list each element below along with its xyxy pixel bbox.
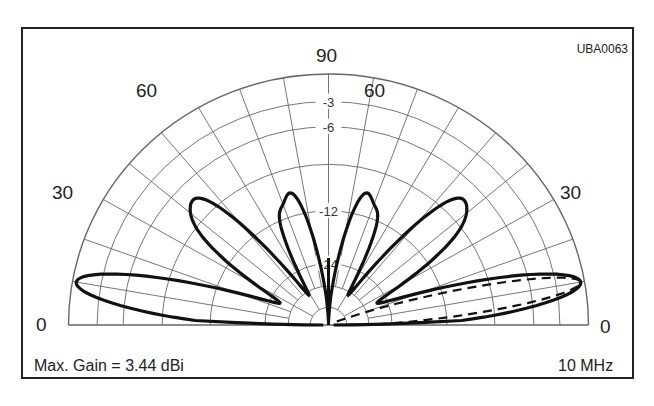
pattern-solid-right: [329, 193, 581, 325]
angle-label-60-left: 60: [136, 80, 157, 102]
angle-label-30-right: 30: [560, 182, 581, 204]
pattern-solid-left: [76, 193, 328, 325]
figure-code: UBA0063: [577, 42, 628, 56]
angle-label-0-left: 0: [36, 314, 47, 336]
frequency-label: 10 MHz: [558, 357, 613, 375]
angle-label-30-left: 30: [52, 182, 73, 204]
angle-label-60-right: 60: [364, 80, 385, 102]
max-gain-label: Max. Gain = 3.44 dBi: [34, 357, 184, 375]
svg-text:-12: -12: [319, 204, 338, 219]
angle-label-90: 90: [316, 45, 337, 67]
svg-text:-3: -3: [323, 95, 335, 110]
svg-text:-6: -6: [323, 120, 335, 135]
angle-label-0-right: 0: [600, 316, 611, 338]
